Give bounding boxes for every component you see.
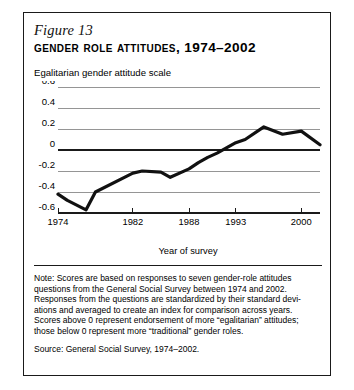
x-tick-label: 1988	[179, 216, 200, 227]
line-chart-svg: 0.60.40.20-0.2-0.4-0.6197419821988199320…	[34, 81, 322, 233]
note-line: those below 0 represent more “traditiona…	[34, 326, 322, 337]
figure-title: Gender Role Attitudes, 1974–2002	[34, 39, 320, 56]
note-line: Note: Scores are based on responses to s…	[34, 273, 322, 284]
notes-block: Note: Scores are based on responses to s…	[34, 273, 322, 354]
note-divider	[34, 265, 322, 266]
x-tick-label: 1974	[48, 216, 69, 227]
chart-plot-area: 0.60.40.20-0.2-0.4-0.6197419821988199320…	[34, 81, 322, 233]
y-tick-label: -0.4	[38, 180, 55, 191]
note-line: Responses from the questions are standar…	[34, 294, 322, 305]
y-tick-label: -0.6	[38, 201, 55, 212]
x-axis-caption: Year of survey	[34, 246, 320, 257]
note-line: questions from the General Social Survey…	[34, 284, 322, 295]
x-tick-label: 1982	[122, 216, 143, 227]
y-tick-label: 0	[50, 138, 55, 149]
x-tick-label: 2000	[291, 216, 312, 227]
y-tick-label: 0.6	[42, 81, 55, 86]
y-tick-label: 0.4	[42, 96, 56, 107]
y-tick-label: 0.2	[42, 117, 55, 128]
source-line: Source: General Social Survey, 1974–2002…	[34, 344, 322, 355]
note-line: Scores above 0 represent endorsement of …	[34, 315, 322, 326]
figure-card: Figure 13 Gender Role Attitudes, 1974–20…	[23, 12, 331, 376]
y-tick-label: -0.2	[38, 159, 55, 170]
figure-number: Figure 13	[34, 22, 320, 38]
y-axis-caption: Egalitarian gender attitude scale	[34, 67, 320, 79]
x-tick-label: 1993	[225, 216, 246, 227]
data-line-egalitarian-scale	[58, 127, 320, 210]
note-line: ations and averaged to create an index f…	[34, 305, 322, 316]
